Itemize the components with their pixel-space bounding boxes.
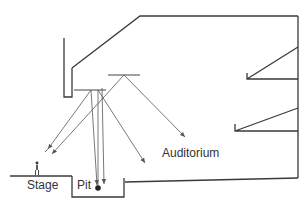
auditorium-label: Auditorium	[162, 147, 219, 159]
lower-balcony	[235, 108, 298, 131]
sound-rays	[45, 75, 185, 188]
pit-label: Pit	[77, 179, 91, 191]
proscenium-wall	[64, 38, 72, 97]
acoustic-section-diagram	[0, 0, 306, 206]
performer-figure	[36, 162, 39, 175]
stage-label: Stage	[27, 179, 58, 191]
upper-balcony	[247, 47, 298, 79]
auditorium-floor	[125, 178, 298, 182]
pit-source-dot	[95, 185, 101, 191]
ceiling	[72, 16, 298, 68]
